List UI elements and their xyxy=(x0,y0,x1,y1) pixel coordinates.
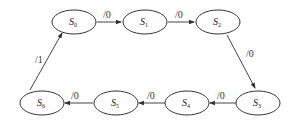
state-s3: S3 xyxy=(236,91,280,115)
edge-s2-s3 xyxy=(227,35,255,88)
state-s5: S5 xyxy=(94,91,138,115)
state-s1: S1 xyxy=(123,10,167,34)
edge-label-s5-s6: /0 xyxy=(71,90,79,101)
edge-label-s3-s4: /0 xyxy=(217,90,225,101)
edge-label-s4-s5: /0 xyxy=(147,90,155,101)
edge-label-s1-s2: /0 xyxy=(175,9,183,20)
edge-label-s0-s1: /0 xyxy=(103,9,111,20)
state-s0: S0 xyxy=(52,10,96,34)
state-s6: S6 xyxy=(20,91,64,115)
edge-label-s6-s0: /1 xyxy=(35,54,43,65)
state-s2: S2 xyxy=(196,10,240,34)
edge-label-s2-s3: /0 xyxy=(246,48,254,59)
state-diagram: /0 /0 /0 /0 /0 /0 /1 S0 S1 S2 S3 S4 S5 S… xyxy=(0,0,291,126)
state-s4: S4 xyxy=(165,91,209,115)
